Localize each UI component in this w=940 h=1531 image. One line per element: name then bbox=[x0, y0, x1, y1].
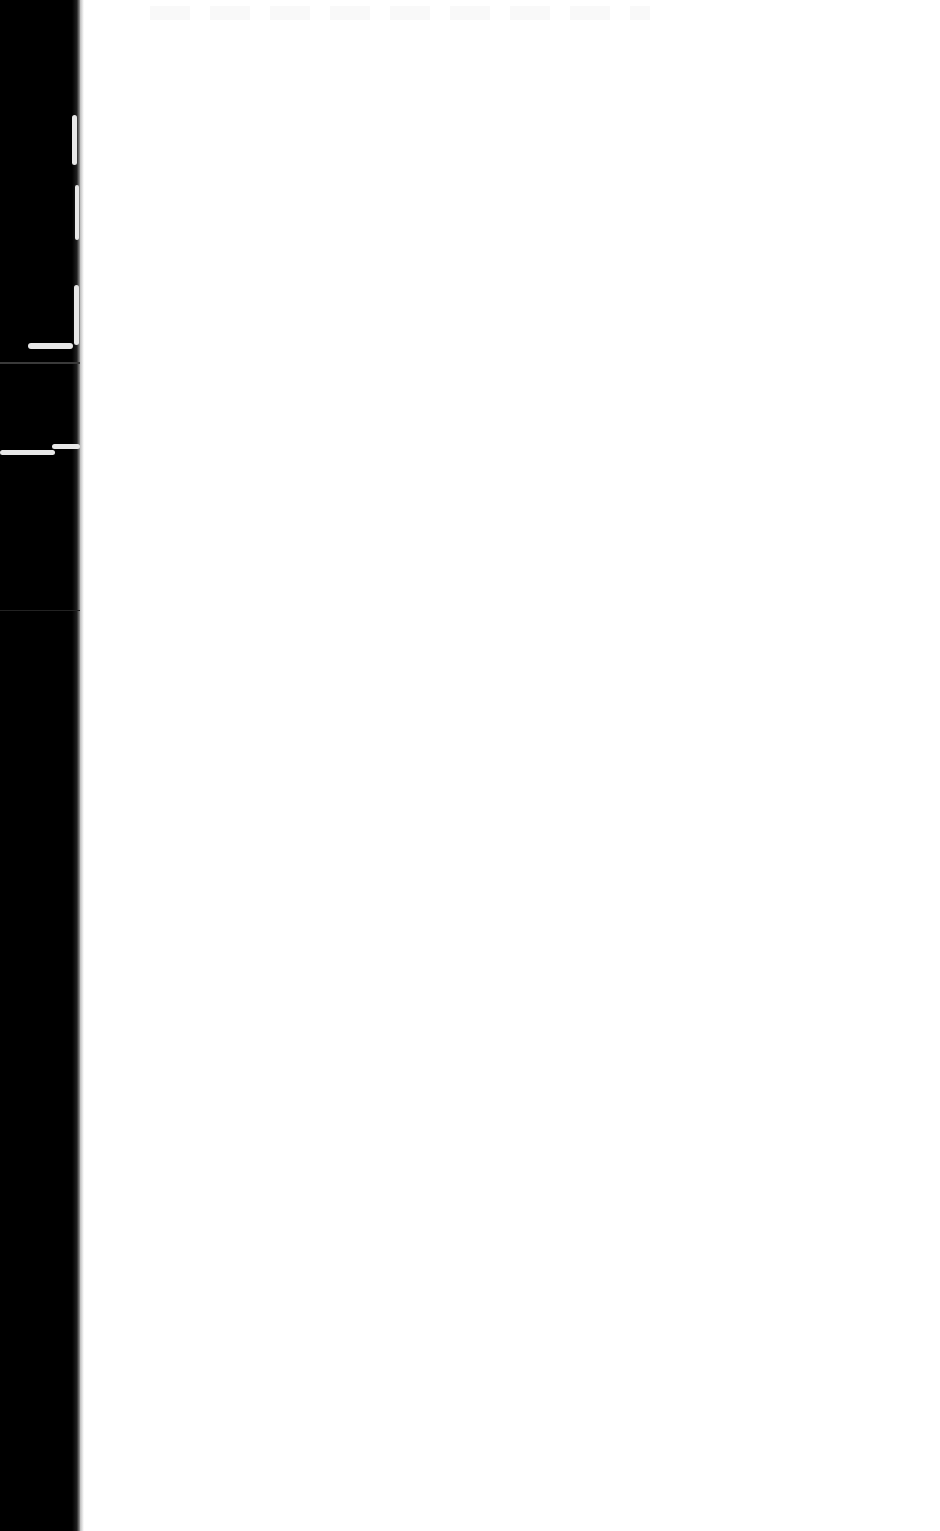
page-body bbox=[84, 0, 940, 1531]
border-scuff bbox=[74, 285, 79, 345]
border-scuff bbox=[0, 450, 55, 455]
border-scuff bbox=[52, 444, 80, 449]
scanned-page bbox=[0, 0, 940, 1531]
border-scuff bbox=[28, 343, 73, 349]
border-scuff bbox=[72, 115, 77, 165]
scanner-border bbox=[0, 0, 80, 1531]
scanner-seam bbox=[0, 362, 80, 364]
border-scuff bbox=[75, 185, 79, 240]
scanner-seam bbox=[0, 610, 80, 611]
